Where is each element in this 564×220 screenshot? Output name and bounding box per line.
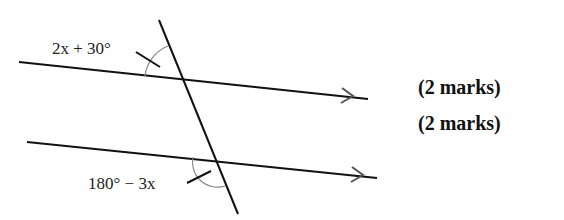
bottom-angle-pointer xyxy=(187,171,211,183)
top-parallel-line xyxy=(19,62,368,99)
bottom-parallel-line xyxy=(27,142,377,178)
marks-label-2: (2 marks) xyxy=(418,112,501,135)
parallel-lines-diagram xyxy=(0,0,564,220)
transversal-line xyxy=(159,20,238,214)
angle-label-top: 2x + 30° xyxy=(52,39,111,59)
bottom-arrow-icon xyxy=(351,167,363,182)
top-angle-arc xyxy=(145,46,168,76)
marks-label-1: (2 marks) xyxy=(418,76,501,99)
angle-label-bottom: 180° − 3x xyxy=(88,174,155,194)
